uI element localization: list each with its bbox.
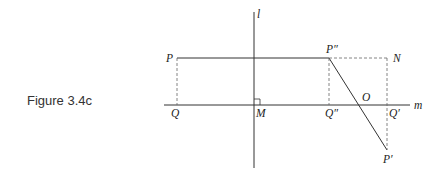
label-o: O [362, 91, 371, 103]
label-p: P [165, 52, 173, 64]
label-p-prime: P′ [382, 153, 393, 165]
geometry-diagram: l m P P″ N Q M Q″ O Q′ P′ [0, 0, 446, 177]
segment-p2-p1 [329, 58, 387, 150]
right-angle-mark [254, 99, 260, 105]
label-q-double-prime: Q″ [325, 107, 338, 119]
label-q-prime: Q′ [389, 107, 400, 119]
label-p-double-prime: P″ [325, 43, 338, 55]
label-l: l [257, 8, 260, 20]
label-m: m [414, 99, 422, 111]
label-m-point: M [255, 107, 267, 119]
label-n: N [392, 52, 402, 64]
label-q: Q [171, 107, 180, 119]
